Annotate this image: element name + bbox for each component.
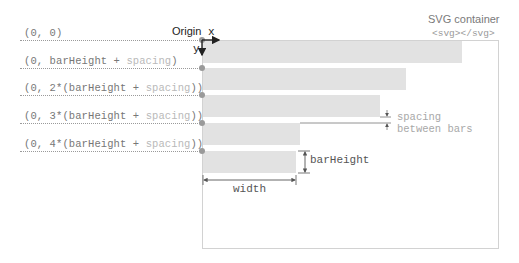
svg-bar-layout-diagram: SVG container <svg></svg> (0, 0) (0, bar… (0, 0, 519, 263)
dimension-overlay (0, 0, 519, 263)
